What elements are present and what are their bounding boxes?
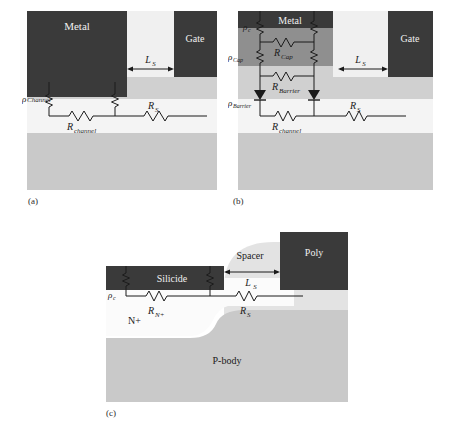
panel-b-rhobarrier-sub: Barrier [233, 103, 252, 109]
panel-c-ls-label: L [244, 277, 251, 288]
panel-b-rcap-sub: Cap [281, 53, 293, 61]
panel-b-gate-block [388, 11, 433, 77]
panel-a-rho-channel-sub: Channel [27, 96, 51, 104]
panel-c-nplus-label: N+ [128, 315, 141, 326]
panel-a-rs-symbol: R [147, 100, 154, 111]
panel-b-substrate-layer [238, 133, 433, 190]
panel-a-rchannel-sub: channel [74, 127, 96, 135]
panel-b-caption: (b) [233, 196, 244, 206]
panel-a-rho-channel-label-group: ρ Channel [22, 94, 51, 104]
panel-c-silicide-label: Silicide [157, 273, 188, 284]
panel-b: Metal Gate L S ρ c R Cap [228, 6, 438, 221]
panel-b-rbarrier-sub: Barrier [279, 87, 300, 95]
panel-b-rchannel-sub: channel [279, 127, 301, 135]
panel-c-rnplus-symbol: R [147, 305, 154, 316]
panel-c-rhoc-sub: c [113, 295, 116, 301]
panel-c-ls-sub: S [253, 283, 257, 291]
panel-c: Silicide Poly Spacer L S ρ c R N+ [98, 228, 358, 423]
panel-c-spacer-label: Spacer [236, 250, 264, 261]
panel-b-ls-sub: S [362, 60, 366, 68]
panel-b-rhoc-sub: c [248, 27, 251, 33]
panel-b-rhocap-sub: Cap [233, 57, 243, 63]
panel-b-rs-symbol: R [349, 100, 356, 111]
panel-a-substrate-layer [27, 133, 217, 190]
panel-b-rs-sub: S [357, 106, 361, 114]
panel-b-rcap-symbol: R [273, 47, 280, 58]
panel-c-rs-symbol: R [239, 305, 246, 316]
panel-b-rbarrier-symbol: R [271, 81, 278, 92]
panel-a: Metal Gate L S ρ Channel R channel [22, 6, 222, 221]
panel-a-gate-block [174, 11, 217, 77]
panel-a-rchannel-symbol: R [66, 121, 73, 132]
panel-a-ls-label: L [144, 54, 151, 65]
panel-a-rs-sub: S [155, 106, 159, 114]
panel-b-ls-label: L [354, 54, 361, 65]
panel-a-gate-label: Gate [186, 33, 205, 44]
panel-c-poly-label: Poly [305, 247, 323, 258]
panel-a-caption: (a) [28, 196, 38, 206]
figure-root: Metal Gate L S ρ Channel R channel [0, 0, 449, 440]
panel-c-rnplus-sub: N+ [154, 311, 165, 319]
panel-c-pbody-label: P-body [213, 355, 242, 366]
panel-c-poly-block [280, 232, 348, 290]
panel-c-caption: (c) [106, 408, 116, 418]
panel-b-gate-label: Gate [401, 33, 420, 44]
panel-b-metal-label: Metal [278, 15, 302, 26]
panel-a-metal-label: Metal [64, 20, 90, 32]
panel-a-ls-sub: S [152, 60, 156, 68]
panel-b-rchannel-symbol: R [271, 121, 278, 132]
panel-c-rs-sub: S [247, 311, 251, 319]
